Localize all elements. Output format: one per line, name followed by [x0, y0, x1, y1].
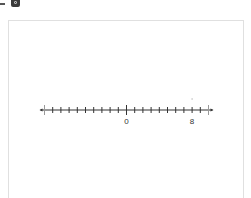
tick-label: 0: [124, 117, 129, 126]
tick-label: 8: [190, 117, 195, 126]
left-arrow-icon: [40, 109, 43, 112]
number-line[interactable]: 08: [0, 0, 251, 198]
right-arrow-icon: [211, 109, 214, 112]
point-marker[interactable]: [191, 98, 193, 100]
